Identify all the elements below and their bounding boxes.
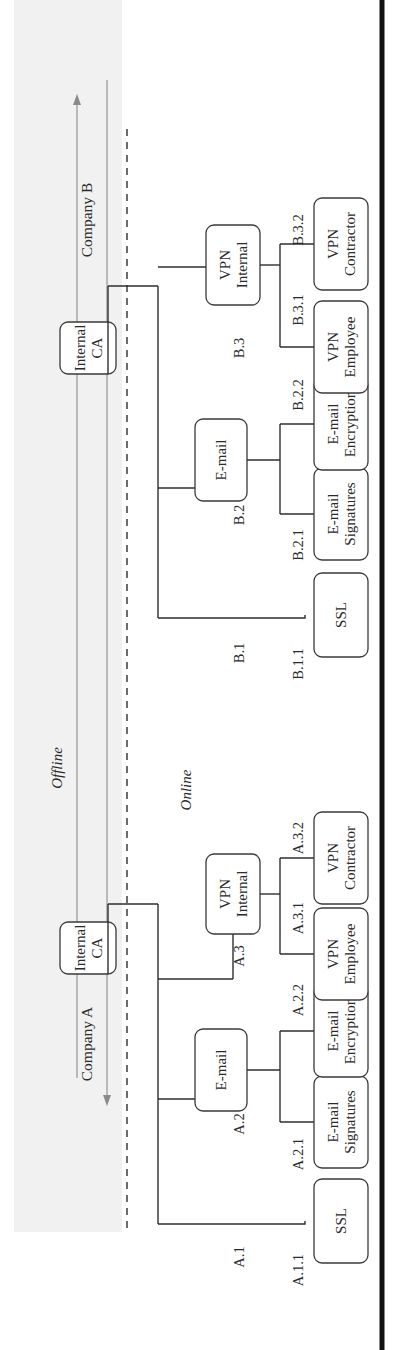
- company-a-hierarchy: Company A: [78, 1006, 95, 1081]
- leaf-A.2.2-line1: E-mail: [325, 1011, 341, 1052]
- leaf-A.3.1-line2: Employee: [342, 923, 358, 984]
- node-A.3: VPNInternal: [206, 854, 260, 934]
- leaf-B.3.2-box: [314, 198, 368, 290]
- leaf-B.1.1: SSL: [314, 573, 368, 657]
- branch-id-B.2: B.2: [231, 505, 247, 526]
- leaf-id-A.3.1: A.3.1: [290, 902, 306, 934]
- leaf-B.2.2-line1: E-mail: [325, 404, 341, 445]
- leaf-B.3.1-box: [314, 301, 368, 393]
- leaf-A.1.1: SSL: [314, 1179, 368, 1263]
- company-a-label: Company A: [78, 1006, 95, 1081]
- node-B.3-line1: VPN: [217, 250, 233, 280]
- leaf-A.3.2: VPNContractor: [314, 812, 368, 904]
- leaf-A.1.1-line1: SSL: [333, 1208, 349, 1234]
- edge-branch-A.1: [158, 1221, 305, 1224]
- leaf-id-B.3.1: B.3.1: [290, 294, 306, 325]
- node-A.2: E-mail: [195, 1029, 247, 1111]
- node-B.3: VPNInternal: [206, 225, 260, 305]
- leaf-id-A.2.2: A.2.2: [290, 984, 306, 1016]
- branch-id-B.3: B.3: [231, 338, 247, 359]
- leaf-B.3.2: VPNContractor: [314, 198, 368, 290]
- leaf-B.2.1: E-mailSignatures: [314, 468, 368, 560]
- node-B.2: E-mail: [195, 419, 247, 501]
- node-A.3-box: [206, 854, 260, 934]
- leaf-B.3.1-line1: VPN: [325, 332, 341, 362]
- edge-branch-B.1: [158, 615, 305, 618]
- branch-id-A.1: A.1: [231, 1246, 247, 1267]
- leaf-id-B.3.2: B.3.2: [290, 214, 306, 245]
- offline-zone-shading: [14, 0, 122, 1232]
- node-A.2-line1: E-mail: [213, 1050, 229, 1091]
- leaf-B.2.2-line2: Encryption: [342, 390, 358, 457]
- branch-id-B.1: B.1: [231, 643, 247, 664]
- leaf-id-A.1.1: A.1.1: [290, 1254, 306, 1286]
- node-B.3-line2: Internal: [234, 242, 250, 289]
- leaf-B.1.1-line1: SSL: [333, 602, 349, 628]
- diagram-canvas: Offline Online Company A: [0, 0, 399, 1350]
- leaf-id-A.2.1: A.2.1: [290, 1138, 306, 1170]
- leaf-A.3.2-line2: Contractor: [342, 826, 358, 890]
- leaf-id-B.2.1: B.2.1: [290, 529, 306, 560]
- leaf-A.3.2-box: [314, 812, 368, 904]
- pki-hierarchy-diagram: Offline Online Company A: [0, 0, 399, 1350]
- leaf-A.2.1-line2: Signatures: [342, 1090, 358, 1153]
- leaf-A.2.2-line2: Encryption: [342, 997, 358, 1064]
- node-A.3-line1: VPN: [217, 879, 233, 909]
- leaf-A.2.1-line1: E-mail: [325, 1102, 341, 1143]
- leaf-B.2.1-line2: Signatures: [342, 482, 358, 545]
- online-zone-label: Online: [178, 769, 194, 810]
- leaf-id-B.2.2: B.2.2: [290, 379, 306, 410]
- leaf-A.3.1-line1: VPN: [325, 939, 341, 969]
- leaf-B.3.1: VPNEmployee: [314, 301, 368, 393]
- company-b-label: Company B: [78, 183, 95, 258]
- branch-id-A.2: A.2: [231, 1113, 247, 1134]
- offline-zone-label: Offline: [49, 747, 65, 789]
- company-a-root-ca-line2: CA: [89, 937, 105, 958]
- leaf-B.3.2-line1: VPN: [325, 229, 341, 259]
- company-b-root-ca-line1: Internal: [72, 325, 88, 372]
- leaf-A.3.1-box: [314, 908, 368, 1000]
- company-b-root-ca-line2: CA: [89, 337, 105, 358]
- leaf-A.2.1: E-mailSignatures: [314, 1076, 368, 1168]
- node-A.3-line2: Internal: [234, 871, 250, 918]
- leaf-B.3.1-line2: Employee: [342, 316, 358, 377]
- leaf-A.3.2-line1: VPN: [325, 843, 341, 873]
- leaf-id-B.1.1: B.1.1: [290, 648, 306, 679]
- leaf-A.2.1-box: [314, 1076, 368, 1168]
- leaf-B.2.1-box: [314, 468, 368, 560]
- node-B.3-box: [206, 225, 260, 305]
- leaf-B.3.2-line2: Contractor: [342, 212, 358, 276]
- page: Offline Online Company A: [0, 0, 399, 1350]
- leaf-A.3.1: VPNEmployee: [314, 908, 368, 1000]
- leaf-B.2.1-line1: E-mail: [325, 494, 341, 535]
- node-B.2-line1: E-mail: [213, 440, 229, 481]
- company-a-root-ca-line1: Internal: [72, 925, 88, 972]
- leaf-id-A.3.2: A.3.2: [290, 822, 306, 854]
